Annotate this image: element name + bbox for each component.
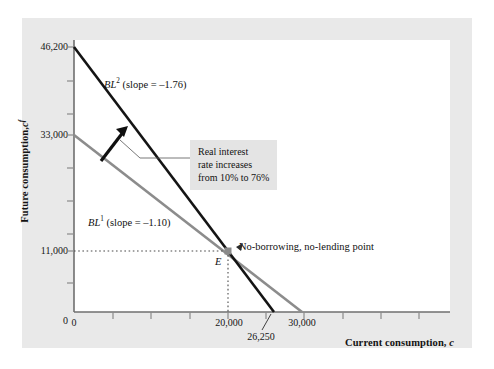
x-axis-ticks [113,312,419,319]
marker-point-e [225,248,232,255]
y-axis-ticks [67,47,74,283]
shift-arrow-shaft [101,131,124,161]
series-line-bl1 [74,135,302,312]
chart-vector-overlay [0,0,494,369]
figure-container: Future consumption,cf Current consumptio… [0,0,494,369]
series-line-bl2 [74,47,274,312]
callout-pointer-e [236,243,243,251]
annotation-leader-diagonal [120,140,140,158]
